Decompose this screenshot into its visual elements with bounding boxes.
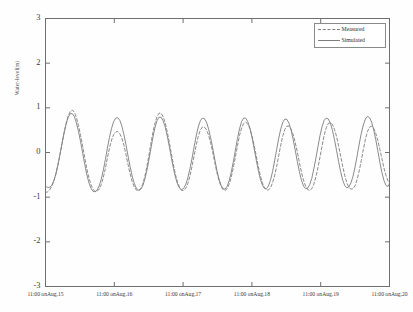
x-tick-label: 11:00 onAug.16 <box>77 291 151 297</box>
series-line-simulated <box>46 114 390 192</box>
y-axis-ticks <box>46 19 390 287</box>
legend-swatch-simulated <box>318 37 340 44</box>
x-tick-label: 11:00 onAug.17 <box>146 291 220 297</box>
figure-canvas: Water-level(m) 3210-1-2-3 11:00 onAug.15… <box>0 0 413 312</box>
series-line-measured <box>46 110 390 193</box>
legend-swatch-measured <box>318 26 340 33</box>
y-tick-label: -2 <box>25 236 41 245</box>
x-tick-label: 11:00 onAug.19 <box>284 291 358 297</box>
y-tick-label: 1 <box>25 102 41 111</box>
legend-entry-simulated: Simulated <box>315 35 385 46</box>
legend-label-measured: Measured <box>340 26 365 32</box>
legend: Measured Simulated <box>314 23 386 48</box>
y-tick-label: -3 <box>25 281 41 290</box>
legend-entry-measured: Measured <box>315 24 385 35</box>
y-tick-label: 3 <box>25 13 41 22</box>
x-tick-label: 11:00 onAug.15 <box>9 291 83 297</box>
x-axis-ticks <box>114 19 320 287</box>
y-tick-label: -1 <box>25 192 41 201</box>
x-tick-label: 11:00 onAug.18 <box>215 291 289 297</box>
y-axis-label: Water-level(m) <box>14 48 20 108</box>
plot-frame <box>46 19 390 287</box>
legend-label-simulated: Simulated <box>340 37 366 43</box>
y-tick-label: 0 <box>25 147 41 156</box>
x-tick-label: 11:00 onAug.20 <box>353 291 413 297</box>
y-tick-label: 2 <box>25 58 41 67</box>
